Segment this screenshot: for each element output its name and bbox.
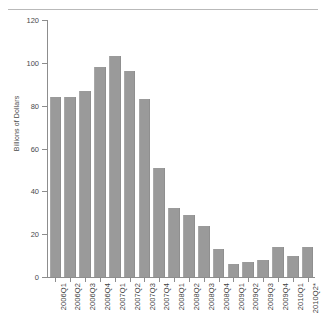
bar-slot [285,20,300,277]
bar-slot [152,20,167,277]
x-tick [70,278,71,282]
bar [272,247,284,277]
y-tick-label: 0 [0,273,39,282]
bar [109,56,121,277]
x-tick [204,278,205,282]
bar-slot [256,20,271,277]
y-tick-label: 80 [0,102,39,111]
bar-slot [241,20,256,277]
bar-series [48,20,315,277]
bar [183,215,195,277]
y-tick-label: 40 [0,187,39,196]
bar-slot [226,20,241,277]
x-tick [278,278,279,282]
x-tick-label: 2007Q2 [133,283,142,310]
bar-slot [196,20,211,277]
x-tick-label: 2006Q3 [88,283,97,310]
bar [242,262,254,277]
y-tick-label: 60 [0,145,39,154]
x-tick-label: 2009Q4 [281,283,290,310]
x-tick [85,278,86,282]
bar-slot [182,20,197,277]
bar-slot [122,20,137,277]
x-tick [55,278,56,282]
bar [79,91,91,277]
top-divider [8,9,318,10]
x-tick [130,278,131,282]
bar-slot [48,20,63,277]
x-tick [144,278,145,282]
bar [139,99,151,277]
x-tick-label: 2008Q1 [177,283,186,310]
y-tick-label: 100 [0,59,39,68]
x-tick [159,278,160,282]
y-tick [42,149,47,150]
x-tick-label: 2007Q3 [148,283,157,310]
x-tick [174,278,175,282]
y-tick [42,106,47,107]
y-tick [42,191,47,192]
bar-slot [93,20,108,277]
chart-figure: Billions of Dollars 020406080100120 2006… [0,0,326,328]
x-tick-label: 2010Q2* [311,283,320,313]
y-tick [42,63,47,64]
x-tick-label: 2007Q1 [118,283,127,310]
bar [287,256,299,277]
x-tick-label: 2009Q2 [251,283,260,310]
bar [257,260,269,277]
bar [50,97,62,277]
bar [302,247,314,277]
x-tick-label: 2008Q4 [222,283,231,310]
x-tick-label: 2006Q4 [103,283,112,310]
x-tick [219,278,220,282]
x-tick-label: 2008Q3 [207,283,216,310]
y-tick-label: 120 [0,16,39,25]
x-tick-label: 2006Q2 [73,283,82,310]
x-tick-label: 2006Q1 [59,283,68,310]
x-tick [248,278,249,282]
bar-slot [211,20,226,277]
x-tick-label: 2009Q1 [237,283,246,310]
x-tick-label: 2008Q2 [192,283,201,310]
bar-slot [107,20,122,277]
x-tick-label: 2010Q1 [296,283,305,310]
x-tick-label: 2007Q4 [162,283,171,310]
bar [168,208,180,277]
x-tick [189,278,190,282]
bar [213,249,225,277]
bar [228,264,240,277]
bar [64,97,76,277]
x-tick [100,278,101,282]
bar-slot [271,20,286,277]
y-tick [42,234,47,235]
x-tick [233,278,234,282]
x-axis-line [47,277,315,278]
bar-slot [167,20,182,277]
x-tick-label: 2009Q3 [266,283,275,310]
x-tick [263,278,264,282]
x-tick [308,278,309,282]
bar-slot [300,20,315,277]
bar-slot [63,20,78,277]
x-tick [293,278,294,282]
x-tick [115,278,116,282]
bar [198,226,210,277]
bar-slot [78,20,93,277]
y-tick [42,20,47,21]
bar-slot [137,20,152,277]
bar [124,71,136,277]
y-tick [42,277,47,278]
bar [94,67,106,277]
y-tick-label: 20 [0,230,39,239]
bar [153,168,165,277]
